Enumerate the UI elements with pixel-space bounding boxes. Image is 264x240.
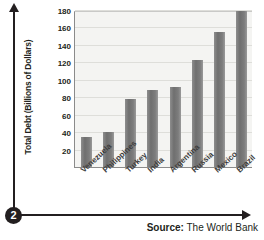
y-axis-tick-label: 140 bbox=[58, 41, 71, 50]
y-axis-tick-label: 180 bbox=[58, 7, 71, 16]
y-axis-tick-label: 40 bbox=[62, 129, 71, 138]
source-caption: Source: The World Bank bbox=[0, 222, 258, 233]
arrow-right-icon-head bbox=[242, 210, 251, 220]
x-axis-ticks: VenezuelaPhilippinesTurkeyIndiaArgentina… bbox=[74, 168, 264, 214]
y-axis-title: Total Debt (Billions of Dollars) bbox=[23, 17, 33, 177]
plot-wrapper: 20406080100120140160180 bbox=[74, 11, 252, 168]
source-label: Source: bbox=[147, 222, 184, 233]
y-axis-tick-label: 20 bbox=[62, 146, 71, 155]
source-value: The World Bank bbox=[186, 222, 258, 233]
arrow-right-icon bbox=[14, 214, 244, 216]
step-number-marker: 2 bbox=[5, 207, 22, 224]
arrow-up-icon bbox=[13, 10, 15, 212]
y-axis-ticks: 20406080100120140160180 bbox=[74, 11, 252, 168]
y-axis-tick-label: 120 bbox=[58, 59, 71, 68]
y-axis-tick-label: 60 bbox=[62, 111, 71, 120]
y-axis-tick-label: 80 bbox=[62, 94, 71, 103]
arrow-up-icon-head bbox=[9, 3, 19, 12]
y-axis-tick-label: 160 bbox=[58, 24, 71, 33]
bar-chart-figure: 2 Total Debt (Billions of Dollars) 20406… bbox=[0, 0, 264, 240]
y-axis-tick-label: 100 bbox=[58, 76, 71, 85]
